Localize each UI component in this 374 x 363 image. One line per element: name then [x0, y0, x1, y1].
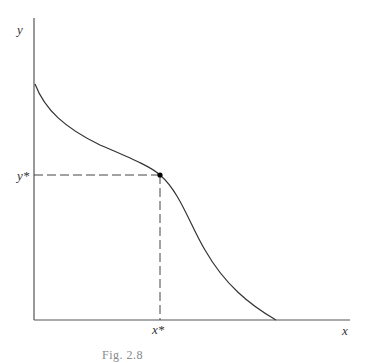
x-axis-label: x [342, 324, 348, 337]
x-star-label: x* [152, 323, 164, 336]
figure-caption: Fig. 2.8 [102, 348, 143, 363]
equilibrium-point [157, 172, 162, 177]
y-axis-label: y [17, 23, 23, 36]
y-star-label: y* [17, 169, 29, 182]
curve [35, 84, 276, 320]
